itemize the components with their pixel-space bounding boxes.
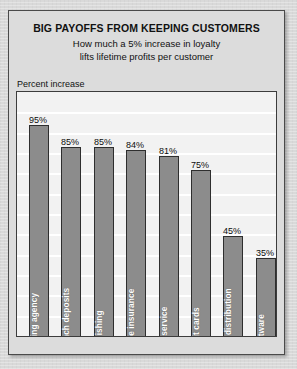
bar-category-label: Credit cards <box>191 307 201 337</box>
bar: 85%Publishing <box>94 147 114 336</box>
chart-card: BIG PAYOFFS FROM KEEPING CUSTOMERS How m… <box>8 10 285 355</box>
bar: 35%Software <box>256 258 276 336</box>
bar-value-label: 35% <box>256 248 274 258</box>
bar-category-label: Publishing <box>94 310 104 337</box>
bar-value-label: 85% <box>94 137 112 147</box>
bar: 85%Bank branch deposits <box>61 147 81 336</box>
bar-value-label: 75% <box>191 160 209 170</box>
bar-value-label: 45% <box>223 226 241 236</box>
chart-title: BIG PAYOFFS FROM KEEPING CUSTOMERS <box>9 22 284 35</box>
bar-series: 95%Advertising agency85%Bank branch depo… <box>17 92 276 336</box>
bar-value-label: 95% <box>29 115 47 125</box>
chart-subtitle-line-1: How much a 5% increase in loyalty <box>9 38 284 51</box>
bar-category-label: Software <box>256 314 266 337</box>
bar-value-label: 84% <box>126 140 144 150</box>
plot-area: 95%Advertising agency85%Bank branch depo… <box>16 91 277 337</box>
bar-category-label: Bank branch deposits <box>61 288 71 337</box>
bar: 45%Industrial distribution <box>223 236 243 336</box>
bar-category-label: Auto/home insurance <box>126 289 136 337</box>
bar-value-label: 81% <box>159 146 177 156</box>
bar-category-label: Advertising agency <box>29 293 39 337</box>
bar-category-label: Industrial distribution <box>223 288 233 337</box>
y-axis-caption: Percent increase <box>17 79 85 89</box>
bar: 95%Advertising agency <box>29 125 49 336</box>
bar: 84%Auto/home insurance <box>126 150 146 336</box>
chart-heading: BIG PAYOFFS FROM KEEPING CUSTOMERS How m… <box>9 11 284 63</box>
bar: 81%Auto service <box>159 156 179 336</box>
bar-value-label: 85% <box>61 137 79 147</box>
chart-subtitle-line-2: lifts lifetime profits per customer <box>9 51 284 64</box>
chart-subtitle: How much a 5% increase in loyalty lifts … <box>9 38 284 63</box>
page-background: BIG PAYOFFS FROM KEEPING CUSTOMERS How m… <box>0 0 297 369</box>
bar: 75%Credit cards <box>191 170 211 336</box>
bar-category-label: Auto service <box>159 306 169 337</box>
